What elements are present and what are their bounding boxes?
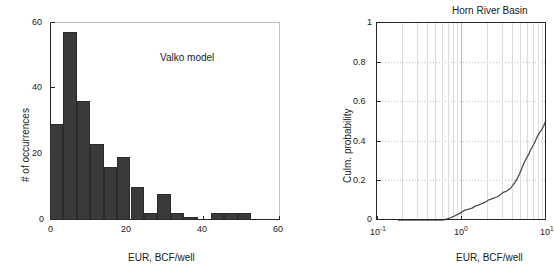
histogram-bar — [90, 144, 103, 220]
right-yticklabel-1: 1 — [367, 18, 372, 27]
right-axes-frame — [376, 22, 546, 220]
right-cdf-panel: 0 0.2 0.4 0.6 0.8 1 10-1 100 101 Horn Ri… — [300, 0, 546, 280]
right-xaxis-label: EUR, BCF/well — [456, 252, 523, 263]
left-histogram-panel: 0 20 40 60 0 20 40 60 Valko model EUR, B… — [0, 0, 300, 280]
right-xticklabel-10: 101 — [540, 226, 554, 237]
left-xticklabel-20: 20 — [121, 225, 131, 234]
left-yaxis-label: # of occurrences — [20, 108, 31, 182]
left-xticklabel-40: 40 — [197, 225, 207, 234]
histogram-bar — [117, 157, 130, 220]
right-yticklabel-0.4: 0.4 — [353, 137, 366, 146]
histogram-bar — [104, 167, 117, 220]
right-ytick-0.4 — [377, 141, 381, 142]
histogram-bar — [131, 187, 144, 220]
right-yticklabel-0.8: 0.8 — [353, 58, 366, 67]
histogram-bar — [144, 213, 157, 220]
right-xtick-0.1 — [377, 216, 378, 220]
histogram-bar — [63, 32, 76, 220]
left-xticklabel-0: 0 — [48, 225, 53, 234]
left-yticklabel-20: 20 — [32, 149, 42, 158]
right-yaxis-label: Culm. probability — [342, 109, 353, 183]
right-xticklabel-10-mantissa: 10 — [540, 227, 550, 237]
right-xtick-10 — [545, 216, 546, 220]
right-xticklabel-0.1-exponent: -1 — [380, 225, 386, 232]
right-xtick-1 — [461, 216, 462, 220]
right-yticklabel-0.2: 0.2 — [353, 176, 366, 185]
left-yticklabel-40: 40 — [32, 83, 42, 92]
histogram-bar — [77, 101, 90, 220]
right-yticklabel-0: 0 — [367, 215, 372, 224]
left-annotation: Valko model — [160, 52, 214, 63]
right-xticklabel-0.1: 10-1 — [370, 226, 386, 237]
left-xticklabel-60: 60 — [273, 225, 283, 234]
right-xticklabel-10-exponent: 1 — [550, 225, 554, 232]
right-xticklabel-1-exponent: 0 — [464, 225, 468, 232]
right-xticklabel-1-mantissa: 10 — [454, 227, 464, 237]
histogram-bar — [50, 124, 63, 220]
histogram-bar — [224, 213, 237, 220]
histogram-bar — [238, 213, 251, 220]
histogram-bar — [171, 213, 184, 220]
right-ytick-0.6 — [377, 101, 381, 102]
right-xticklabel-1: 100 — [454, 226, 468, 237]
right-ytick-0.8 — [377, 62, 381, 63]
right-xticklabel-0.1-mantissa: 10 — [370, 227, 380, 237]
right-ytick-0.2 — [377, 180, 381, 181]
left-xaxis-label: EUR, BCF/well — [128, 252, 195, 263]
right-yticklabel-0.6: 0.6 — [353, 97, 366, 106]
histogram-bar — [157, 194, 170, 220]
histogram-bar — [184, 217, 197, 220]
left-yticklabel-60: 60 — [32, 18, 42, 27]
right-ytick-1 — [377, 22, 381, 23]
histogram-bar — [211, 213, 224, 220]
left-yticklabel-0: 0 — [39, 215, 44, 224]
right-panel-title: Horn River Basin — [452, 5, 528, 16]
